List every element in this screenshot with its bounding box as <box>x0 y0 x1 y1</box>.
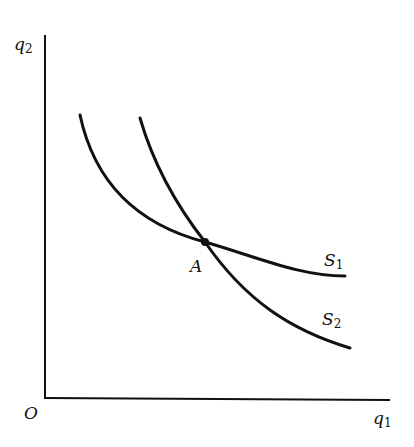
x-axis-label: q1 <box>373 410 392 429</box>
curve-s2-label: S2 <box>322 311 341 330</box>
curve-s2 <box>140 118 350 348</box>
y-axis-label: q2 <box>14 36 33 55</box>
point-a-marker <box>201 238 209 246</box>
point-a-label: A <box>190 258 202 275</box>
x-axis <box>44 398 390 400</box>
curve-s1-label: S1 <box>324 252 343 271</box>
origin-label: O <box>24 405 38 422</box>
diagram-canvas <box>0 0 414 447</box>
